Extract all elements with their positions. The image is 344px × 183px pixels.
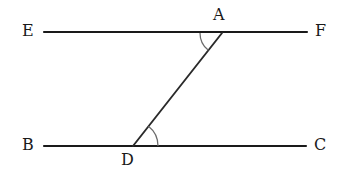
transversal-da (133, 33, 222, 146)
point-label-e: E (22, 23, 34, 39)
point-label-f: F (315, 23, 326, 39)
point-label-c: C (314, 137, 326, 153)
figure-canvas (0, 0, 344, 183)
angle-arc-at-a (200, 33, 208, 50)
geometry-figure: E F A B C D (0, 0, 344, 183)
point-label-d: D (121, 152, 134, 168)
point-label-b: B (22, 137, 34, 153)
angle-arc-at-d (148, 126, 158, 146)
point-label-a: A (213, 7, 225, 23)
